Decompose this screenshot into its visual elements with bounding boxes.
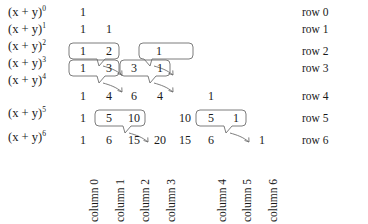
column-label-4: column 4 <box>217 152 229 222</box>
expression-row-4: (x + y)4 <box>8 74 68 87</box>
triangle-cell-r0c0: 1 <box>70 6 96 18</box>
expression-exponent-1: 1 <box>42 21 46 30</box>
triangle-cell-r4c4: 1 <box>198 90 224 102</box>
expression-exponent-0: 0 <box>42 4 46 13</box>
triangle-cell-r6c5: 6 <box>198 134 224 146</box>
triangle-cell-r4c0: 1 <box>70 90 96 102</box>
column-label-3: column 3 <box>166 152 178 222</box>
expression-base-5: (x + y) <box>8 106 42 120</box>
expression-exponent-6: 6 <box>42 129 46 138</box>
column-label-1: column 1 <box>115 152 127 222</box>
expression-row-3: (x + y)3 <box>8 57 68 70</box>
triangle-cell-r6c2: 15 <box>121 134 147 146</box>
expression-row-0: (x + y)0 <box>8 6 68 19</box>
triangle-cell-r6c3: 20 <box>147 134 173 146</box>
triangle-cell-r3c1: 3 <box>96 62 122 74</box>
triangle-cell-r1c1: 1 <box>96 23 122 35</box>
expression-base-4: (x + y) <box>8 73 42 87</box>
expression-exponent-4: 4 <box>42 72 46 81</box>
triangle-cell-r3c0: 1 <box>70 62 96 74</box>
row-label-5: row 5 <box>302 113 329 125</box>
row-label-0: row 0 <box>302 7 329 19</box>
triangle-cell-r2c2: 1 <box>146 45 172 57</box>
triangle-cell-r5c4: 5 <box>198 112 224 124</box>
expression-row-6: (x + y)6 <box>8 131 68 144</box>
row-label-2: row 2 <box>302 46 329 58</box>
expression-base-3: (x + y) <box>8 56 42 70</box>
expression-base-2: (x + y) <box>8 39 42 53</box>
expression-row-5: (x + y)5 <box>8 107 68 120</box>
triangle-cell-r2c0: 1 <box>70 45 96 57</box>
row-label-4: row 4 <box>302 91 329 103</box>
triangle-cell-r4c2: 6 <box>121 90 147 102</box>
triangle-cell-r6c4: 15 <box>172 134 198 146</box>
triangle-cell-r6c1: 6 <box>96 134 122 146</box>
column-label-6: column 6 <box>268 152 280 222</box>
triangle-cell-r3c2: 3 <box>121 62 147 74</box>
triangle-cell-r4c3: 4 <box>147 90 173 102</box>
expression-base-6: (x + y) <box>8 130 42 144</box>
expression-base-1: (x + y) <box>8 22 42 36</box>
expression-exponent-2: 2 <box>42 38 46 47</box>
pascals-triangle-figure: (x + y)0 (x + y)1 (x + y)2 (x + y)3 (x +… <box>0 0 368 224</box>
row-label-6: row 6 <box>302 135 329 147</box>
triangle-cell-r5c1: 5 <box>96 112 122 124</box>
row-label-1: row 1 <box>302 24 329 36</box>
column-label-0: column 0 <box>89 152 101 222</box>
expression-exponent-3: 3 <box>42 55 46 64</box>
triangle-cell-r5c2: 10 <box>121 112 147 124</box>
expression-row-2: (x + y)2 <box>8 40 68 53</box>
row-label-3: row 3 <box>302 63 329 75</box>
triangle-cell-r2c1: 2 <box>96 45 122 57</box>
triangle-cell-r1c0: 1 <box>70 23 96 35</box>
triangle-cell-r4c1: 4 <box>96 90 122 102</box>
triangle-cell-r5c5: 1 <box>223 112 249 124</box>
triangle-cell-r5c0: 1 <box>70 112 96 124</box>
triangle-cell-r6c0: 1 <box>70 134 96 146</box>
triangle-cell-r6c6: 1 <box>249 134 275 146</box>
expression-row-1: (x + y)1 <box>8 23 68 36</box>
expression-exponent-5: 5 <box>42 105 46 114</box>
triangle-cell-r5c3: 10 <box>172 112 198 124</box>
column-label-5: column 5 <box>242 152 254 222</box>
expression-base-0: (x + y) <box>8 5 42 19</box>
column-label-2: column 2 <box>140 152 152 222</box>
triangle-cell-r3c3: 1 <box>147 62 173 74</box>
